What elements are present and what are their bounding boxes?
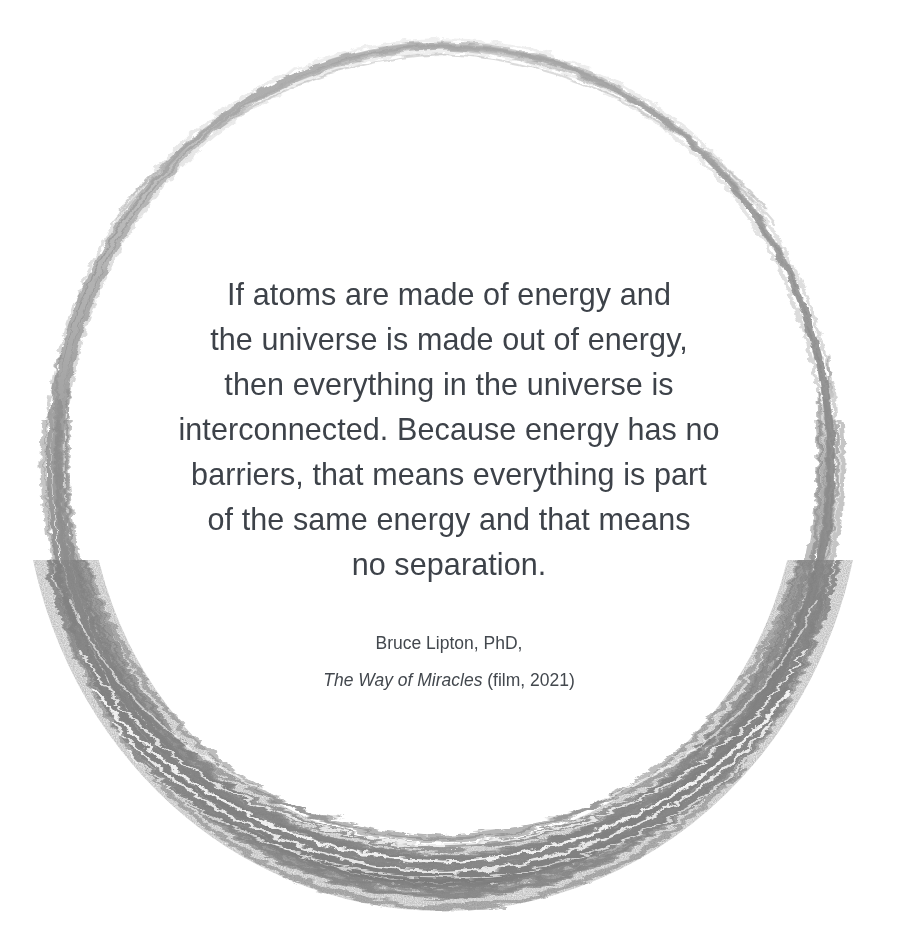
quote-text: If atoms are made of energy and the univ… [99,272,799,587]
quote-line-6: of the same energy and that means [99,497,799,542]
attribution-source: The Way of Miracles (film, 2021) [99,662,799,699]
quote-line-7: no separation. [99,542,799,587]
quote-line-1: If atoms are made of energy and [99,272,799,317]
attribution-source-suffix: (film, 2021) [482,670,574,690]
attribution-author: Bruce Lipton, PhD, [99,625,799,662]
quote-line-2: the universe is made out of energy, [99,317,799,362]
attribution-source-title: The Way of Miracles [323,670,482,690]
card-content: If atoms are made of energy and the univ… [0,0,898,951]
quote-card: If atoms are made of energy and the univ… [0,0,898,951]
quote-line-4: interconnected. Because energy has no [99,407,799,452]
quote-line-3: then everything in the universe is [99,362,799,407]
quote-line-5: barriers, that means everything is part [99,452,799,497]
attribution: Bruce Lipton, PhD, The Way of Miracles (… [99,625,799,699]
